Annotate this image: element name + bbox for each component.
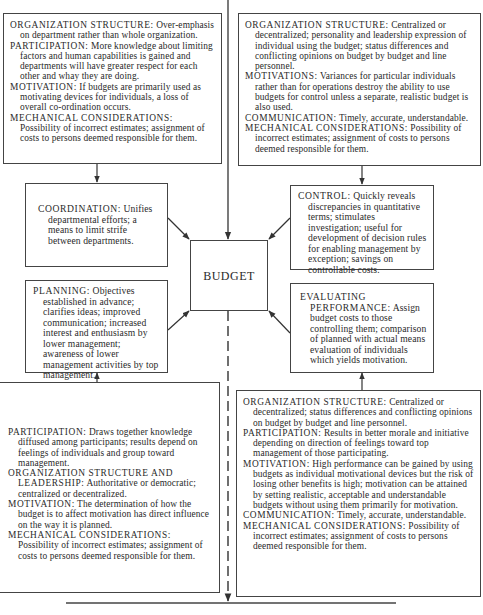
entry: MECHANICAL CONSIDERATIONS: Possibility o…: [245, 123, 475, 154]
entry: PARTICIPATION: More knowledge about limi…: [10, 41, 216, 82]
coordination-text: COORDINATION: Unifies departmental effor…: [38, 204, 159, 246]
bottom-left-considerations-box: PARTICIPATION: Draws together knowledge …: [0, 382, 220, 593]
entry: ORGANIZATION STRUCTURE: Centralized or d…: [245, 20, 475, 71]
entry: MOTIVATION: High performance can be gain…: [243, 459, 475, 510]
planning-box: PLANNING: Objectives established in adva…: [25, 280, 168, 373]
entry: ORGANIZATION STRUCTURE AND LEADERSHIP: A…: [8, 468, 213, 499]
entry: ORGANIZATION STRUCTURE: Over-emphasis on…: [10, 20, 216, 41]
entry: MOTIVATIONS: Variances for particular in…: [245, 71, 475, 112]
entry: COMMUNICATION: Timely, accurate, underst…: [243, 510, 475, 520]
entry: MECHANICAL CONSIDERATIONS: Possibility o…: [10, 113, 216, 144]
bottom-right-considerations-box: ORGANIZATION STRUCTURE: Centralized or d…: [236, 390, 481, 597]
entry: PARTICIPATION: Results in better morale …: [243, 428, 475, 459]
planning-text: PLANNING: Objectives established in adva…: [33, 286, 161, 381]
top-right-considerations-box: ORGANIZATION STRUCTURE: Centralized or d…: [238, 13, 481, 166]
entry: MECHANICAL CONSIDERATIONS: Possibility o…: [243, 521, 475, 552]
coordination-box: COORDINATION: Unifies departmental effor…: [25, 183, 168, 267]
entry: ORGANIZATION STRUCTURE: Centralized or d…: [243, 397, 475, 428]
budget-label: BUDGET: [191, 268, 267, 283]
top-left-considerations-box: ORGANIZATION STRUCTURE: Over-emphasis on…: [3, 13, 222, 164]
evaluating-performance-box: EVALUATING PERFORMANCE: Assign budget co…: [290, 283, 434, 373]
entry: COMMUNICATION: Timely, accurate, underst…: [245, 113, 475, 123]
control-box: CONTROL: Quickly reveals discrepancies i…: [290, 185, 434, 270]
evaluating-text: EVALUATING PERFORMANCE: Assign budget co…: [300, 292, 427, 366]
entry: MOTIVATION: The determination of how the…: [8, 499, 213, 530]
control-text: CONTROL: Quickly reveals discrepancies i…: [298, 191, 428, 275]
entry: MECHANICAL CONSIDERATIONS: Possibility o…: [8, 530, 213, 561]
budget-box: BUDGET: [190, 240, 268, 311]
entry: PARTICIPATION: Draws together knowledge …: [8, 427, 213, 468]
entry: MOTIVATION: If budgets are primarily use…: [10, 82, 216, 113]
